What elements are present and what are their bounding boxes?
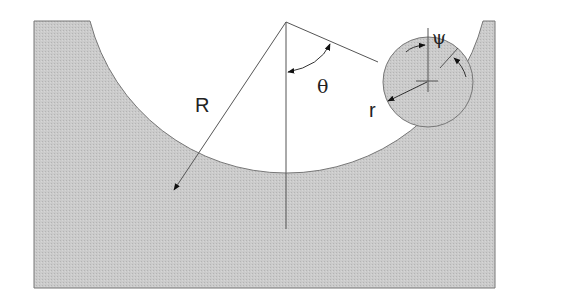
label-r: r bbox=[369, 99, 376, 121]
label-psi: ψ bbox=[432, 27, 446, 48]
label-theta: θ bbox=[317, 75, 328, 97]
label-R: R bbox=[195, 94, 209, 116]
trough-ball-diagram: R θ r ψ bbox=[0, 0, 570, 306]
ball-direction-line bbox=[286, 22, 378, 62]
theta-arc-arrow bbox=[288, 44, 330, 72]
